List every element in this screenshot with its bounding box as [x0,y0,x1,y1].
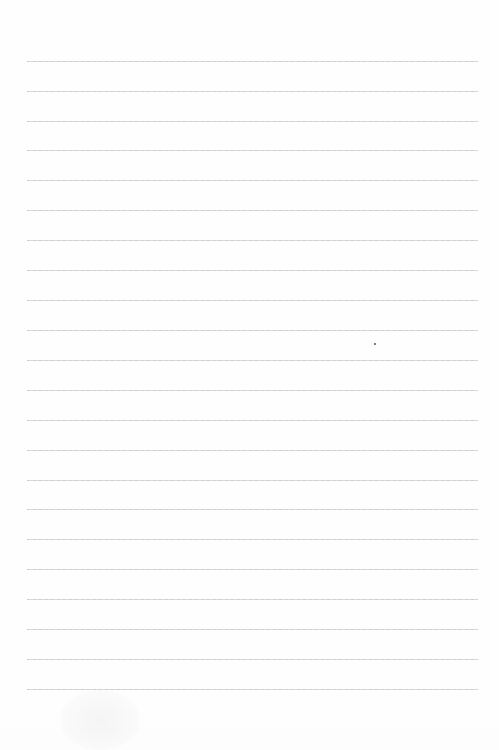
ruled-line [27,270,478,271]
ruled-line [27,659,478,660]
ruled-line [27,509,478,510]
ruled-line [27,180,478,181]
ruled-line [27,240,478,241]
scan-speck [374,343,376,345]
ruled-line [27,210,478,211]
ruled-line [27,599,478,600]
ruled-line [27,300,478,301]
ruled-line [27,390,478,391]
ruled-line [27,330,478,331]
ruled-line [27,629,478,630]
ruled-line [27,360,478,361]
scan-smudge [60,690,140,750]
ruled-line [27,91,478,92]
ruled-line [27,150,478,151]
ruled-line [27,450,478,451]
ruled-line [27,420,478,421]
ruled-line [27,569,478,570]
ruled-line [27,121,478,122]
ruled-line [27,61,478,62]
ruled-line [27,480,478,481]
ruled-line [27,539,478,540]
